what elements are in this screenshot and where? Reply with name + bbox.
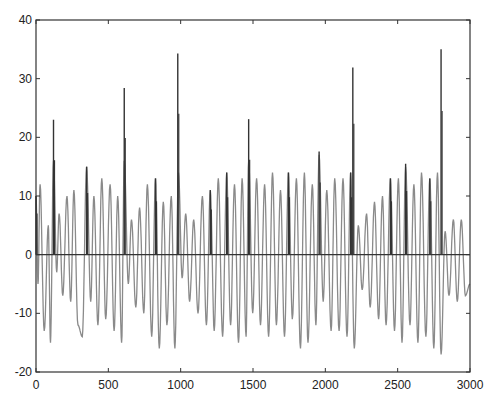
- y-tick-label: -10: [15, 306, 33, 320]
- x-tick-label: 2500: [384, 378, 411, 392]
- x-tick-label: 500: [98, 378, 118, 392]
- y-tick-label: 0: [25, 248, 32, 262]
- x-tick-label: 0: [33, 378, 40, 392]
- x-tick-label: 1500: [240, 378, 267, 392]
- y-tick-label: 30: [19, 72, 33, 86]
- y-tick-label: 10: [19, 189, 33, 203]
- x-tick-label: 3000: [457, 378, 484, 392]
- x-tick-label: 2000: [312, 378, 339, 392]
- y-tick-label: 20: [19, 130, 33, 144]
- y-tick-label: -20: [15, 365, 33, 379]
- x-tick-label: 1000: [167, 378, 194, 392]
- line-chart: 050010001500200025003000 -20-10010203040: [0, 0, 491, 406]
- y-tick-label: 40: [19, 13, 33, 27]
